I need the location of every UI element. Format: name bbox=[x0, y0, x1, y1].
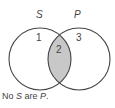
region-label-1: 1 bbox=[36, 33, 42, 43]
region-label-3: 3 bbox=[76, 33, 82, 43]
caption: No S are P. bbox=[2, 91, 49, 101]
venn-diagram: S P 1 2 3 No S are P. bbox=[0, 0, 115, 108]
caption-text: are bbox=[22, 91, 40, 101]
region-label-2: 2 bbox=[56, 45, 62, 55]
set-label-p: P bbox=[74, 10, 81, 20]
set-label-s: S bbox=[36, 10, 43, 20]
caption-text: . bbox=[46, 91, 49, 101]
caption-text: No bbox=[2, 91, 16, 101]
